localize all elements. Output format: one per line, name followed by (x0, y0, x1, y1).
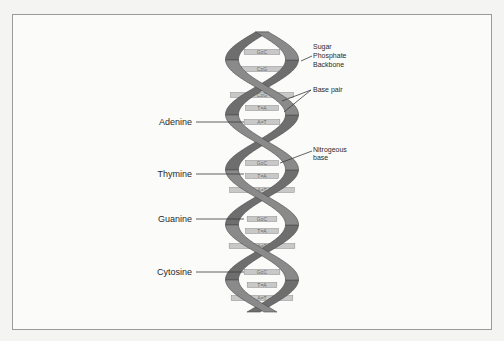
label-nitrogenous-line1: Nitrogeous (313, 146, 347, 154)
label-backbone-line2: Phosphate (313, 52, 347, 60)
dna-diagram: G≡CC≡GC≡GT=AA=TG≡CT=AA=TG≡CT=AA=TG≡CT=AA… (0, 0, 504, 341)
base-pair-label: G≡C (257, 49, 268, 55)
label-backbone-line1: Sugar (313, 43, 332, 51)
base-pair-label: T=A (257, 228, 267, 234)
label-nitrogenous-line2: base (313, 154, 328, 161)
base-pair-label: T=A (257, 105, 267, 111)
label-thymine: Thymine (157, 169, 192, 179)
label-base-pair: Base pair (313, 86, 343, 94)
label-backbone-line3: Backbone (313, 61, 344, 68)
base-pair-label: G≡C (257, 269, 268, 275)
base-pair-label: T=A (257, 282, 267, 288)
label-adenine: Adenine (159, 117, 192, 127)
base-pair-label: G≡C (257, 160, 268, 166)
base-pair-label: T=A (257, 173, 267, 179)
base-pair-label: G≡C (257, 216, 268, 222)
base-pair-label: A=T (257, 295, 266, 301)
label-cytosine: Cytosine (157, 267, 192, 277)
base-pair-label: C≡G (257, 66, 268, 72)
label-guanine: Guanine (158, 214, 192, 224)
backbone-leader-line (301, 56, 312, 61)
base-pair-label: A=T (257, 119, 266, 125)
